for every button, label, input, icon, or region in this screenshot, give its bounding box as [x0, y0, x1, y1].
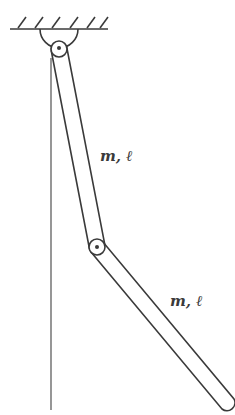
middle-joint-dot	[95, 245, 99, 249]
top-pivot-dot	[57, 46, 61, 50]
rod-2	[90, 240, 235, 410]
link-2-label: m, ℓ	[170, 292, 203, 310]
top-pivot	[51, 41, 67, 57]
link-1-label: m, ℓ	[100, 147, 133, 165]
double-pendulum-diagram	[0, 0, 235, 415]
middle-joint	[89, 239, 105, 255]
rod-1	[51, 42, 105, 254]
ceiling-hatch	[18, 17, 108, 28]
